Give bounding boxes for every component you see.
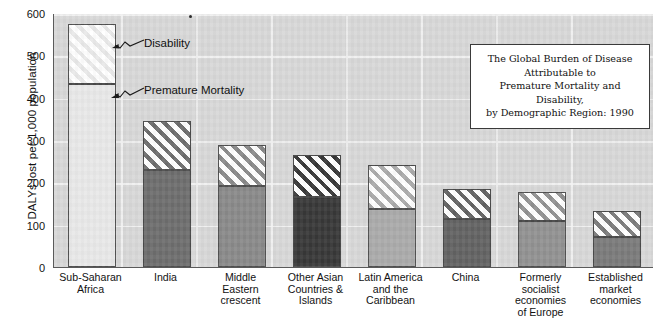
bar-china[interactable] — [443, 189, 491, 267]
mortality-segment — [293, 197, 341, 267]
disability-segment — [218, 145, 266, 186]
mortality-segment — [443, 219, 491, 267]
chart-title-box: The Global Burden of Disease Attributabl… — [470, 44, 650, 129]
bar-formerly-socialist-economies-of-europe[interactable] — [518, 192, 566, 267]
mortality-segment — [68, 84, 116, 267]
title-line-3: by Demographic Region: 1990 — [479, 106, 641, 120]
x-category-label-line: Established — [568, 272, 661, 284]
disability-segment — [368, 165, 416, 208]
mortality-segment — [518, 221, 566, 267]
disability-segment — [68, 24, 116, 84]
callout-premature-mortality-label: Premature Mortality — [144, 84, 244, 96]
gridline-vertical — [346, 14, 348, 267]
mortality-segment — [368, 209, 416, 267]
bar-other-asian-countries-islands[interactable] — [293, 155, 341, 267]
bar-middle-eastern-crescent[interactable] — [218, 145, 266, 267]
y-tick-label: 200 — [15, 177, 45, 189]
y-tick-label: 0 — [15, 262, 45, 274]
x-axis-category-labels: Sub-SaharanAfricaIndiaMiddleEasterncresc… — [53, 272, 653, 321]
x-category-label-line: of Europe — [493, 307, 588, 319]
bar-latin-america-and-the-caribbean[interactable] — [368, 165, 416, 267]
x-category-label-line: economies — [568, 295, 661, 307]
disability-segment — [293, 155, 341, 197]
callout-disability-label: Disability — [144, 37, 190, 49]
callout-disability-arrow — [110, 38, 146, 54]
x-category-label-line: Caribbean — [343, 295, 438, 307]
bar-india[interactable] — [143, 121, 191, 267]
y-tick-label: 300 — [15, 135, 45, 147]
mortality-segment — [593, 237, 641, 267]
title-line-1: The Global Burden of Disease Attributabl… — [479, 52, 641, 79]
disability-segment — [443, 189, 491, 219]
gridline-vertical — [196, 14, 198, 267]
chart-root: DALYs lost per 1,000 population 01002003… — [0, 0, 661, 321]
disability-segment — [518, 192, 566, 222]
x-category-label-line: Africa — [43, 284, 138, 296]
page-speck — [189, 15, 192, 18]
mortality-segment — [218, 186, 266, 267]
mortality-segment — [143, 170, 191, 267]
y-tick-label: 600 — [15, 8, 45, 20]
gridline-horizontal — [54, 14, 653, 16]
y-tick-label: 500 — [15, 50, 45, 62]
disability-segment — [143, 121, 191, 171]
bar-established-market-economies[interactable] — [593, 211, 641, 267]
title-line-2: Premature Mortality and Disability, — [479, 79, 641, 106]
gridline-vertical — [421, 14, 423, 267]
callout-premature-mortality-arrow — [108, 86, 146, 104]
y-tick-label: 100 — [15, 220, 45, 232]
y-axis-tick-labels: 0100200300400500600 — [13, 0, 45, 321]
disability-segment — [593, 211, 641, 237]
y-tick-label: 400 — [15, 93, 45, 105]
bar-sub-saharan-africa[interactable] — [68, 24, 116, 267]
x-category-label: Establishedmarketeconomies — [568, 272, 661, 307]
gridline-vertical — [271, 14, 273, 267]
